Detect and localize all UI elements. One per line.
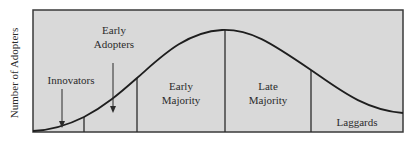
label-early-adopters-line1: Early [102, 24, 126, 36]
label-late-majority-line2: Majority [249, 94, 288, 106]
label-early-adopters-line2: Adopters [94, 38, 134, 50]
label-laggards: Laggards [337, 116, 378, 128]
y-axis-label: Number of Adopters [8, 28, 20, 118]
label-late-majority-line1: Late [258, 80, 278, 92]
label-early-majority-line2: Majority [162, 94, 201, 106]
label-innovators: Innovators [47, 74, 94, 86]
label-early-majority-line1: Early [169, 80, 193, 92]
adoption-curve-diagram: Number of Adopters Innovators Early Adop… [0, 0, 411, 142]
